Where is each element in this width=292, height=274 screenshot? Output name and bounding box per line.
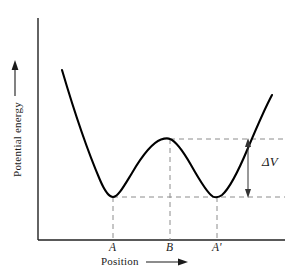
y-axis-label-container: Potential energy — [0, 60, 34, 220]
potential-energy-diagram: Potential energy Position A B A' ΔV — [0, 0, 292, 274]
potential-energy-curve — [62, 70, 272, 197]
x-tick-label-b: B — [166, 242, 173, 254]
x-tick-label-a: A — [109, 242, 116, 254]
x-axis-label: Position — [101, 256, 139, 267]
right-arrow-icon — [178, 259, 188, 266]
x-tick-label-a-prime: A' — [212, 242, 221, 254]
plot-canvas — [0, 0, 292, 274]
y-axis-label: Potential energy — [12, 76, 23, 204]
delta-v-label: ΔV — [262, 155, 278, 168]
